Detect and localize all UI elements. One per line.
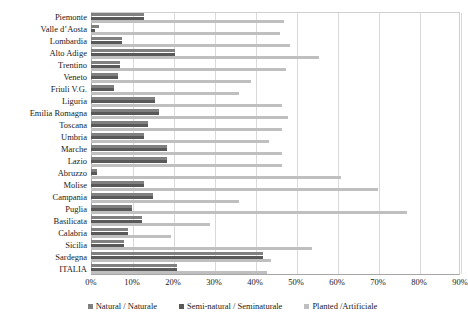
- category-label: Toscana: [0, 121, 87, 130]
- category-bar-group: [91, 167, 460, 179]
- x-tick-label: 40%: [247, 277, 263, 288]
- category-label: Calabria: [0, 229, 87, 238]
- category-bar-group: [91, 72, 460, 84]
- category-bar-group: [91, 155, 460, 167]
- x-tick-label: 30%: [206, 277, 222, 288]
- legend-swatch-icon: [179, 304, 184, 309]
- legend-label: Natural / Naturale: [96, 301, 157, 311]
- category-bar-group: [91, 144, 460, 156]
- bar-planted: [91, 92, 239, 95]
- gridline: [461, 13, 462, 274]
- chart-legend: Natural / NaturaleSemi-natural / Seminat…: [0, 298, 465, 314]
- bar-planted: [91, 56, 319, 59]
- x-tick-label: 20%: [165, 277, 181, 288]
- bar-planted: [91, 128, 282, 131]
- category-label: Lazio: [0, 157, 87, 166]
- bar-planted: [91, 211, 407, 214]
- legend-item: Semi-natural / Seminaturale: [179, 301, 282, 311]
- bar-planted: [91, 259, 271, 262]
- category-label: Alto Adige: [0, 49, 87, 58]
- category-label: Piemonte: [0, 13, 87, 22]
- category-label: Basilicata: [0, 217, 87, 226]
- category-label: Lombardia: [0, 37, 87, 46]
- legend-swatch-icon: [88, 304, 93, 309]
- bar-planted: [91, 247, 312, 250]
- x-tick-label: 90%: [452, 277, 468, 288]
- category-label: Molise: [0, 181, 87, 190]
- bar-planted: [91, 44, 290, 47]
- bar-planted: [91, 140, 269, 143]
- x-tick-label: 50%: [288, 277, 304, 288]
- bar-planted: [91, 104, 282, 107]
- bar-planted: [91, 176, 341, 179]
- category-bar-group: [91, 203, 460, 215]
- legend-label: Planted /Artificiale: [312, 301, 377, 311]
- bar-planted: [91, 223, 210, 226]
- category-label: Trentino: [0, 61, 87, 70]
- category-bar-group: [91, 48, 460, 60]
- category-bar-group: [91, 132, 460, 144]
- x-tick-label: 0%: [85, 277, 96, 288]
- category-bar-group: [91, 227, 460, 239]
- category-bar-group: [91, 108, 460, 120]
- category-label: Veneto: [0, 73, 87, 82]
- x-tick-label: 60%: [329, 277, 345, 288]
- x-tick-label: 10%: [124, 277, 140, 288]
- bar-planted: [91, 235, 171, 238]
- bar-planted: [91, 200, 239, 203]
- category-bar-group: [91, 215, 460, 227]
- category-label: ITALIA: [0, 265, 87, 274]
- category-bar-group: [91, 60, 460, 72]
- bar-planted: [91, 271, 267, 274]
- category-bar-group: [91, 24, 460, 36]
- bar-planted: [91, 152, 282, 155]
- legend-item: Planted /Artificiale: [304, 301, 377, 311]
- category-label: Friuli V.G.: [0, 85, 87, 94]
- bar-planted: [91, 164, 282, 167]
- category-bar-group: [91, 191, 460, 203]
- category-bar-group: [91, 96, 460, 108]
- category-axis-labels: PiemonteValle d’AostaLombardiaAlto Adige…: [0, 12, 87, 275]
- category-bar-group: [91, 120, 460, 132]
- bar-planted: [91, 188, 378, 191]
- category-label: Umbria: [0, 133, 87, 142]
- category-label: Liguria: [0, 97, 87, 106]
- category-bar-group: [91, 239, 460, 251]
- category-label: Campania: [0, 193, 87, 202]
- category-bar-group: [91, 179, 460, 191]
- bar-planted: [91, 68, 286, 71]
- category-label: Valle d’Aosta: [0, 25, 87, 34]
- category-label: Marche: [0, 145, 87, 154]
- x-axis-tick-labels: 0%10%20%30%40%50%60%70%80%90%: [0, 277, 465, 291]
- x-tick-label: 70%: [370, 277, 386, 288]
- category-bar-group: [91, 84, 460, 96]
- category-bar-group: [91, 263, 460, 275]
- category-label: Abruzzo: [0, 169, 87, 178]
- category-label: Emilia Romagna: [0, 109, 87, 118]
- category-bar-group: [91, 12, 460, 24]
- category-label: Sicilia: [0, 241, 87, 250]
- legend-item: Natural / Naturale: [88, 301, 157, 311]
- category-label: Sardegna: [0, 253, 87, 262]
- bar-planted: [91, 20, 284, 23]
- bar-series-group: [91, 12, 460, 275]
- x-tick-label: 80%: [411, 277, 427, 288]
- category-bar-group: [91, 251, 460, 263]
- bar-planted: [91, 32, 280, 35]
- category-label: Puglia: [0, 205, 87, 214]
- bar-planted: [91, 80, 251, 83]
- bar-planted: [91, 116, 288, 119]
- category-bar-group: [91, 36, 460, 48]
- legend-swatch-icon: [304, 304, 309, 309]
- legend-label: Semi-natural / Seminaturale: [187, 301, 282, 311]
